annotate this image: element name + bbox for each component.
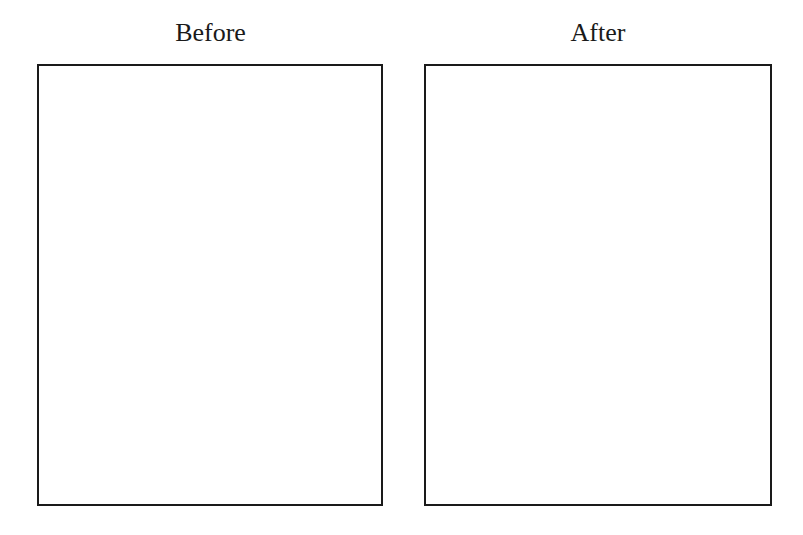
before-panel	[37, 64, 383, 506]
after-panel	[424, 64, 772, 506]
after-title: After	[425, 18, 771, 48]
before-title: Before	[38, 18, 383, 48]
